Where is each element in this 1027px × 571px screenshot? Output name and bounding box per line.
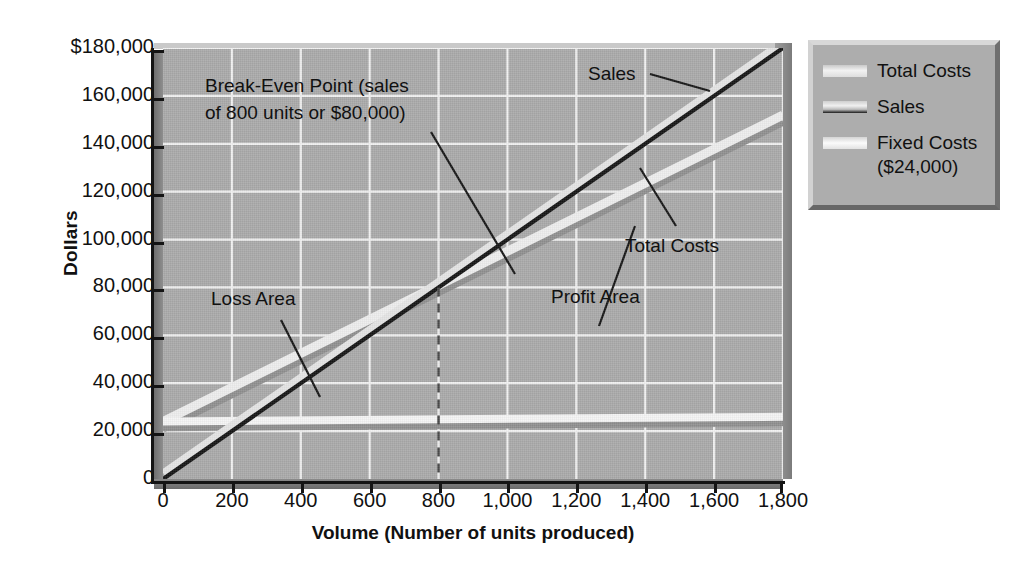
- plot-area: Break-Even Point (sales of 800 units or …: [163, 48, 783, 479]
- annotation-loss-area: Loss Area: [211, 285, 296, 312]
- annotation-profit-area: Profit Area: [551, 283, 640, 310]
- chart-page: Dollars 020,00040,00060,00080,000100,000…: [0, 0, 1027, 571]
- x-tickmark: [163, 481, 166, 493]
- x-axis-title: Volume (Number of units produced): [163, 522, 783, 544]
- legend: Total Costs Sales Fixed Costs ($24,000): [808, 40, 1000, 210]
- legend-item-total-costs: Total Costs: [823, 59, 995, 83]
- y-tickmark: [151, 98, 164, 101]
- legend-label-fixed-costs-main: Fixed Costs: [877, 132, 977, 153]
- annotation-break-even: Break-Even Point (sales of 800 units or …: [205, 72, 409, 126]
- x-tickmark: [507, 481, 510, 493]
- plot-3d-left-edge: [154, 53, 163, 484]
- legend-swatch-total-costs-icon: [823, 65, 867, 77]
- x-tickmark: [370, 481, 373, 493]
- legend-label-sales: Sales: [877, 95, 925, 119]
- y-tickmark: [151, 242, 164, 245]
- legend-label-fixed-costs-sub: ($24,000): [877, 156, 958, 177]
- legend-item-fixed-costs: Fixed Costs ($24,000): [823, 131, 995, 179]
- y-tickmark: [151, 146, 164, 149]
- y-tickmark: [151, 433, 164, 436]
- annotation-break-even-line1: Break-Even Point (sales: [205, 72, 409, 99]
- x-tickmark: [301, 481, 304, 493]
- x-tickmark: [645, 481, 648, 493]
- x-tickmark: [439, 481, 442, 493]
- y-tickmark: [151, 337, 164, 340]
- annotation-sales: Sales: [588, 60, 636, 87]
- y-axis-spine: [151, 48, 154, 484]
- x-axis-spine: [151, 481, 785, 484]
- x-tickmark: [780, 481, 783, 493]
- annotation-total-costs: Total Costs: [625, 232, 719, 259]
- annotation-break-even-line2: of 800 units or $80,000): [205, 99, 409, 126]
- x-tick-label: 1,800: [738, 489, 828, 512]
- y-tickmark: [151, 50, 164, 53]
- legend-item-sales: Sales: [823, 95, 995, 119]
- y-tickmark: [151, 385, 164, 388]
- legend-swatch-sales-icon: [823, 101, 867, 113]
- legend-swatch-fixed-costs-icon: [823, 137, 867, 149]
- legend-label-total-costs: Total Costs: [877, 59, 971, 83]
- y-tickmark: [151, 194, 164, 197]
- y-tickmark: [151, 289, 164, 292]
- x-tickmark: [232, 481, 235, 493]
- x-tickmark: [576, 481, 579, 493]
- x-tickmark: [714, 481, 717, 493]
- legend-label-fixed-costs: Fixed Costs ($24,000): [877, 131, 977, 179]
